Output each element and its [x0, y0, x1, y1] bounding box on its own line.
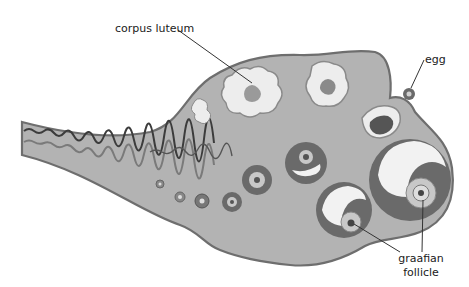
graafian-follicle-label: graafian follicle: [396, 252, 446, 280]
ovary-diagram: [0, 0, 469, 287]
secondary-follicle: [285, 142, 327, 184]
graafian-label-line2: follicle: [396, 266, 446, 280]
corpus-luteum-label: corpus luteum: [115, 22, 194, 36]
egg: [403, 88, 415, 100]
egg-label: egg: [425, 53, 446, 67]
graafian-label-line1: graafian: [396, 252, 446, 266]
egg-leader: [411, 60, 424, 88]
corpus-luteum-second: [306, 61, 349, 106]
graafian-follicle-large: [369, 139, 451, 221]
